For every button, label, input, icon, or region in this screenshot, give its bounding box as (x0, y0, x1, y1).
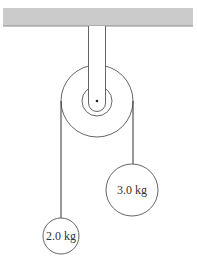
ceiling (3, 8, 193, 26)
mass-3kg-label: 3.0 kg (117, 183, 147, 197)
atwood-machine-diagram: 3.0 kg 2.0 kg (0, 0, 197, 260)
mass-2kg-label: 2.0 kg (46, 229, 76, 243)
mass-3kg: 3.0 kg (106, 164, 158, 216)
pulley-bracket (89, 26, 106, 112)
axle-dot (96, 100, 99, 103)
mass-2kg: 2.0 kg (43, 218, 79, 254)
